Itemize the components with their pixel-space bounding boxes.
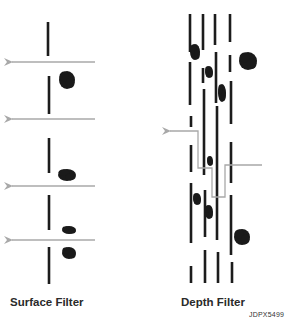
contaminant-particle [239, 52, 257, 70]
depth-filter-label: Depth Filter [181, 296, 245, 308]
contaminant-particle [193, 193, 201, 205]
contaminant-particle [190, 44, 200, 60]
contaminant-particle [207, 156, 213, 166]
contaminant-particle [205, 205, 213, 219]
surface-filter-illustration [12, 22, 95, 284]
contaminant-particle [205, 66, 213, 78]
contaminant-particle [62, 247, 76, 259]
contaminant-particle [58, 169, 76, 181]
contaminant-particle [62, 226, 76, 234]
surface-filter-label: Surface Filter [10, 296, 84, 308]
contaminant-particle [59, 71, 75, 89]
depth-filter-illustration [170, 14, 262, 283]
figure-reference-code: JDPX5499 [249, 311, 284, 318]
contaminant-particle [218, 84, 226, 102]
filter-diagram [0, 0, 288, 324]
contaminant-particle [234, 229, 250, 245]
